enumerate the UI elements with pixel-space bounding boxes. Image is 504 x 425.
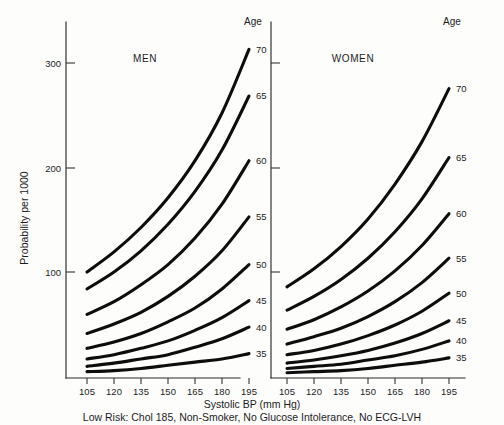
- age-label-65: 65: [456, 152, 467, 163]
- women-x-tick-labels: 105 120 135 150 165 180 195: [279, 386, 457, 397]
- divider-ticks: [271, 63, 280, 272]
- age-label-40: 40: [256, 322, 267, 333]
- figure-page: 300 200 100 Probability per 1000 MEN 105…: [0, 0, 504, 425]
- women-age-header: Age: [443, 16, 461, 27]
- men-curve-group: [87, 49, 249, 371]
- panel-men-title: MEN: [133, 53, 157, 64]
- men-x-label-150: 150: [160, 386, 176, 397]
- women-x-label-195: 195: [441, 386, 457, 397]
- y-tick-label-100: 100: [45, 267, 61, 278]
- age-label-35: 35: [456, 352, 467, 363]
- curve-age-45: [87, 301, 249, 359]
- age-label-45: 45: [456, 315, 467, 326]
- age-label-50: 50: [456, 288, 467, 299]
- women-age-label-group: 7065605550454035: [456, 83, 467, 363]
- men-x-label-165: 165: [187, 386, 203, 397]
- age-label-45: 45: [256, 295, 267, 306]
- curve-age-40: [287, 341, 449, 369]
- age-label-65: 65: [256, 90, 267, 101]
- risk-chart-figure: 300 200 100 Probability per 1000 MEN 105…: [0, 0, 504, 425]
- age-label-35: 35: [256, 348, 267, 359]
- curve-age-45: [287, 321, 449, 363]
- age-label-70: 70: [256, 44, 267, 55]
- panel-women-title: WOMEN: [332, 53, 374, 64]
- curve-age-50: [87, 265, 249, 349]
- age-label-50: 50: [256, 259, 267, 270]
- panel-men: MEN 105 120 135 150 165 180 195: [79, 16, 267, 397]
- men-x-ticks: [87, 378, 249, 384]
- age-label-55: 55: [256, 211, 267, 222]
- y-tick-label-200: 200: [45, 163, 61, 174]
- women-x-label-180: 180: [414, 386, 430, 397]
- women-x-label-120: 120: [306, 386, 322, 397]
- women-x-label-165: 165: [387, 386, 403, 397]
- curve-age-65: [87, 96, 249, 289]
- curve-age-65: [287, 158, 449, 311]
- men-age-label-group: 7065605550454035: [256, 44, 267, 359]
- women-x-label-150: 150: [360, 386, 376, 397]
- men-x-label-195: 195: [241, 386, 257, 397]
- women-x-ticks: [287, 378, 449, 384]
- men-x-label-135: 135: [133, 386, 149, 397]
- y-axis-title: Probability per 1000: [18, 171, 30, 265]
- men-x-tick-labels: 105 120 135 150 165 180 195: [79, 386, 257, 397]
- curve-age-50: [287, 293, 449, 354]
- men-x-label-180: 180: [214, 386, 230, 397]
- x-axis-title: Systolic BP (mm Hg): [204, 398, 301, 410]
- y-tick-label-300: 300: [45, 58, 61, 69]
- age-label-60: 60: [456, 208, 467, 219]
- men-age-header: Age: [244, 16, 262, 27]
- women-x-label-105: 105: [279, 386, 295, 397]
- curve-age-60: [87, 161, 249, 315]
- age-label-40: 40: [456, 335, 467, 346]
- age-label-70: 70: [456, 83, 467, 94]
- women-x-label-135: 135: [333, 386, 349, 397]
- panel-women: WOMEN 105 120 135 150 165 180 195 7065: [271, 16, 467, 397]
- figure-caption: Low Risk: Chol 185, Non-Smoker, No Gluco…: [83, 411, 421, 423]
- men-x-label-120: 120: [106, 386, 122, 397]
- curve-age-70: [87, 49, 249, 272]
- curve-age-40: [87, 327, 249, 366]
- age-label-60: 60: [256, 155, 267, 166]
- men-x-label-105: 105: [79, 386, 95, 397]
- women-curve-group: [287, 89, 449, 373]
- age-label-55: 55: [456, 253, 467, 264]
